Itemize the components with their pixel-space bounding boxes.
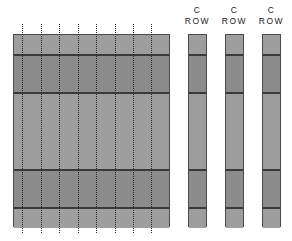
- row-band-light: [263, 208, 280, 228]
- row-band-dark: [226, 170, 243, 208]
- c-row-column: [262, 34, 281, 227]
- row-band-dark: [189, 170, 206, 208]
- row-divider-line: [14, 169, 169, 171]
- c-row-label-line1: C: [252, 5, 292, 16]
- c-row-label-line2: ROW: [178, 16, 218, 27]
- row-band-light: [263, 93, 280, 170]
- c-row-column: [188, 34, 207, 227]
- row-band-dark: [226, 55, 243, 93]
- row-divider-line: [263, 207, 280, 209]
- row-band-dark: [14, 55, 169, 93]
- row-band-dark: [263, 55, 280, 93]
- c-row-label: C ROW: [215, 5, 255, 27]
- row-band-light: [189, 93, 206, 170]
- dotted-column-line: [22, 24, 23, 233]
- row-divider-line: [189, 92, 206, 94]
- main-grid: [13, 34, 170, 227]
- dotted-column-line: [41, 24, 42, 233]
- row-divider-line: [14, 54, 169, 56]
- row-band-dark: [189, 55, 206, 93]
- c-row-column: [225, 34, 244, 227]
- dotted-column-line: [78, 24, 79, 233]
- c-row-label: C ROW: [178, 5, 218, 27]
- row-divider-line: [226, 54, 243, 56]
- row-band-light: [189, 35, 206, 55]
- c-row-label-line1: C: [215, 5, 255, 16]
- c-row-label-line1: C: [178, 5, 218, 16]
- row-divider-line: [226, 92, 243, 94]
- row-divider-line: [14, 92, 169, 94]
- dotted-column-line: [115, 24, 116, 233]
- row-band-dark: [263, 170, 280, 208]
- row-band-dark: [14, 170, 169, 208]
- row-divider-line: [189, 169, 206, 171]
- row-band-light: [14, 35, 169, 55]
- row-divider-line: [263, 169, 280, 171]
- row-divider-line: [14, 207, 169, 209]
- c-row-label-line2: ROW: [252, 16, 292, 27]
- dotted-column-line: [133, 24, 134, 233]
- row-band-light: [226, 208, 243, 228]
- row-band-light: [14, 208, 169, 228]
- c-row-label: C ROW: [252, 5, 292, 27]
- row-band-light: [189, 208, 206, 228]
- row-divider-line: [226, 207, 243, 209]
- row-band-light: [226, 35, 243, 55]
- row-band-light: [14, 93, 169, 170]
- row-band-light: [263, 35, 280, 55]
- c-row-label-line2: ROW: [215, 16, 255, 27]
- row-divider-line: [226, 169, 243, 171]
- dotted-column-line: [151, 24, 152, 233]
- row-divider-line: [263, 92, 280, 94]
- row-divider-line: [263, 54, 280, 56]
- row-band-light: [226, 93, 243, 170]
- row-divider-line: [189, 207, 206, 209]
- row-divider-line: [189, 54, 206, 56]
- dotted-column-line: [96, 24, 97, 233]
- dotted-column-line: [59, 24, 60, 233]
